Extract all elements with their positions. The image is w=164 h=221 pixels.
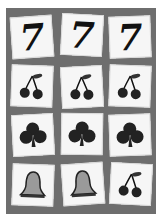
reel-tile-r2c2[interactable] (60, 65, 104, 109)
reel-tile-r4c1[interactable] (11, 163, 54, 206)
cherries-icon (114, 167, 148, 201)
seven-icon: 7 (18, 18, 46, 56)
seven-icon: 7 (69, 16, 96, 53)
reel-tile-r1c3[interactable]: 7 (108, 15, 151, 58)
club-icon (113, 118, 146, 151)
reel-tile-r3c1[interactable] (11, 113, 55, 157)
cherries-icon (65, 70, 99, 104)
reel-tile-r4c3[interactable] (109, 162, 153, 206)
seven-icon: 7 (117, 19, 143, 56)
club-icon (16, 118, 50, 152)
cherries-icon (113, 69, 146, 102)
reel-tile-r2c3[interactable] (108, 64, 151, 107)
reel-tile-r2c1[interactable] (10, 64, 53, 107)
cherries-icon (15, 69, 48, 102)
reel-tile-r3c2[interactable] (61, 113, 104, 156)
reel-tile-r1c2[interactable]: 7 (60, 13, 104, 57)
reel-tile-r3c3[interactable] (108, 113, 151, 156)
reel-tile-r1c1[interactable]: 7 (10, 15, 55, 60)
club-icon (66, 118, 99, 151)
slot-reels-panel: 7 7 7 (6, 8, 156, 214)
bell-icon (66, 167, 100, 201)
reel-tile-r4c2[interactable] (61, 162, 106, 207)
bell-icon (16, 168, 49, 201)
